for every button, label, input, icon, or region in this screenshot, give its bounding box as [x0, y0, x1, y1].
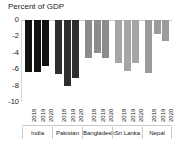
bar[interactable]	[72, 20, 79, 78]
bar-group-india	[22, 20, 52, 102]
bar[interactable]	[145, 20, 152, 73]
x-tick-label-year: 2018	[151, 100, 157, 122]
x-axis-country-labels: IndiaPakistanBangladeshSri LankaNepal	[22, 125, 172, 139]
bar[interactable]	[124, 20, 131, 71]
x-tick-label-year: 2018	[61, 100, 67, 122]
bar-group-nepal	[142, 20, 172, 102]
y-tick-label: -6	[0, 65, 19, 73]
y-tick-label: 0	[0, 16, 19, 24]
bar[interactable]	[115, 20, 122, 63]
bar[interactable]	[64, 20, 71, 86]
plot-area	[22, 20, 172, 102]
x-tick-label-year: 2020	[138, 100, 144, 122]
bar-group-sri-lanka	[112, 20, 142, 102]
bar[interactable]	[132, 20, 139, 63]
bar[interactable]	[94, 20, 101, 53]
x-tick-label-year: 2020	[108, 100, 114, 122]
x-tick-label-year: 2020	[168, 100, 174, 122]
x-tick-label-year: 2018	[91, 100, 97, 122]
country-label-pakistan: Pakistan	[52, 127, 82, 139]
country-label-bangladesh: Bangladesh	[82, 127, 112, 139]
x-tick-label-year: 2018	[31, 100, 37, 122]
chart-figure: Percent of GDP 0-2-4-6-8-10 201820192020…	[0, 0, 177, 142]
x-tick-label-year: 2019	[160, 100, 166, 122]
bar[interactable]	[154, 20, 161, 34]
x-axis-year-labels: 2018201920202018201920202018201920202018…	[22, 102, 172, 124]
bar[interactable]	[42, 20, 49, 66]
y-tick-label: -4	[0, 49, 19, 57]
bar[interactable]	[25, 20, 32, 72]
y-tick-label: -2	[0, 32, 19, 40]
x-tick-label-year: 2018	[121, 100, 127, 122]
country-label-nepal: Nepal	[142, 127, 172, 139]
bar[interactable]	[34, 20, 41, 72]
y-tick-label: -10	[0, 98, 19, 106]
country-label-sri-lanka: Sri Lanka	[112, 127, 142, 139]
bar-group-bangladesh	[82, 20, 112, 102]
x-tick-label-year: 2019	[130, 100, 136, 122]
bar[interactable]	[162, 20, 169, 41]
chart-title: Percent of GDP	[8, 2, 64, 12]
x-tick-label-year: 2020	[48, 100, 54, 122]
bar[interactable]	[85, 20, 92, 58]
x-tick-label-year: 2019	[70, 100, 76, 122]
country-label-india: India	[22, 127, 52, 139]
y-axis-tick-labels: 0-2-4-6-8-10	[0, 20, 19, 102]
x-tick-label-year: 2020	[78, 100, 84, 122]
y-tick-label: -8	[0, 82, 19, 90]
x-tick-label-year: 2019	[100, 100, 106, 122]
x-tick-label-year: 2019	[40, 100, 46, 122]
bar[interactable]	[102, 20, 109, 58]
bar[interactable]	[55, 20, 62, 74]
bar-group-pakistan	[52, 20, 82, 102]
